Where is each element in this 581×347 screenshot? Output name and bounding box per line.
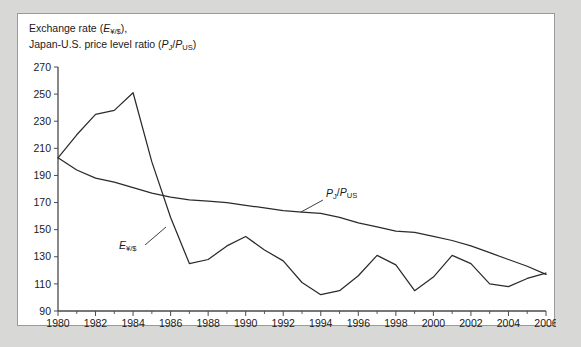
y-tick-label: 210 (33, 142, 51, 154)
y-tick-label: 150 (33, 223, 51, 235)
x-tick-label: 1984 (121, 317, 145, 327)
y-tick-label: 130 (33, 250, 51, 262)
annotation-exchange-rate-label: E¥/$ (119, 239, 137, 253)
x-tick-label: 1986 (159, 317, 183, 327)
x-tick-label: 2000 (422, 317, 446, 327)
x-tick-label: 1980 (46, 317, 70, 327)
x-tick-label: 1994 (309, 317, 333, 327)
x-tick-label: 1996 (347, 317, 371, 327)
y-tick-label: 90 (39, 305, 51, 317)
data-series-group (58, 93, 546, 295)
leader-line-exchange-rate (145, 227, 166, 245)
x-tick-label: 2002 (459, 317, 483, 327)
annotation-price-ratio-label: PJ/PUS (326, 186, 357, 201)
x-tick-label: 1990 (234, 317, 258, 327)
series-line-price-ratio (58, 158, 546, 275)
line-chart: 90110130150170190210230250270 1980198219… (18, 14, 556, 327)
y-tick-label: 270 (33, 61, 51, 73)
x-tick-label: 2004 (497, 317, 521, 327)
y-tick-label: 110 (34, 278, 51, 290)
x-tick-label: 1998 (384, 317, 408, 327)
y-axis: 90110130150170190210230250270 (33, 61, 58, 317)
leader-line-price-ratio (301, 200, 323, 212)
x-axis: 1980198219841986198819901992199419961998… (46, 311, 556, 327)
y-tick-label: 230 (33, 115, 51, 127)
x-tick-label: 1982 (84, 317, 108, 327)
x-tick-label: 1988 (196, 317, 220, 327)
y-tick-label: 170 (33, 196, 51, 208)
x-tick-label: 2006 (534, 317, 556, 327)
plot-area: 90110130150170190210230250270 1980198219… (18, 14, 556, 327)
series-annotations: E¥/$PJ/PUS (119, 186, 357, 253)
x-tick-label: 1992 (272, 317, 296, 327)
series-line-exchange-rate (58, 93, 546, 295)
figure-panel: Exchange rate (E¥/$), Japan-U.S. price l… (17, 13, 555, 326)
y-tick-label: 190 (33, 169, 51, 181)
y-tick-label: 250 (33, 88, 51, 100)
